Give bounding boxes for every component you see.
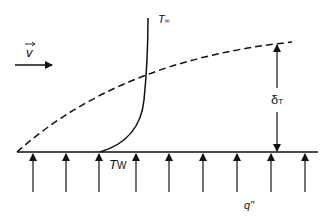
thickness-subscript: T bbox=[278, 97, 283, 106]
free-stream-temperature-label: T∞ bbox=[158, 14, 170, 25]
diagram-graphics bbox=[0, 0, 330, 220]
thermal-boundary-layer-diagram: v T∞ TW δT q" bbox=[0, 0, 330, 220]
wall-temperature-label: TW bbox=[109, 158, 126, 171]
wall-temp-subscript: W bbox=[117, 160, 126, 171]
boundary-layer-edge bbox=[17, 42, 292, 152]
thickness-label: δT bbox=[271, 93, 283, 106]
velocity-label: v bbox=[26, 46, 33, 59]
wall-temp-symbol: T bbox=[109, 157, 117, 172]
heat-flux-symbol: q" bbox=[244, 199, 254, 211]
velocity-symbol: v bbox=[26, 45, 33, 60]
heat-flux-label: q" bbox=[244, 200, 254, 211]
free-stream-temp-symbol: T bbox=[158, 13, 165, 25]
temperature-profile bbox=[100, 18, 148, 152]
heat-flux-arrows bbox=[33, 154, 305, 192]
free-stream-temp-subscript: ∞ bbox=[165, 17, 170, 24]
